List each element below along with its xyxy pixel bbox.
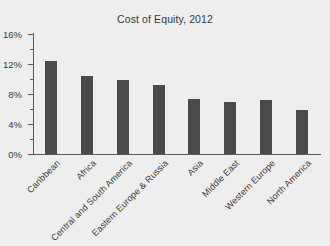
x-tick-label: Eastern Europe & Russia [89,158,169,238]
y-tick-label: 0% [8,149,22,160]
x-tick-label: Africa [74,158,98,182]
y-tick-major: 12% [28,64,33,65]
y-tick-minor [30,109,33,110]
bar [81,76,93,154]
bar-chart: Cost of Equity, 2012 0%4%8%12%16% Caribb… [0,0,330,246]
y-tick-label: 8% [8,89,22,100]
bar [224,102,236,155]
plot-area: 0%4%8%12%16% [33,34,320,154]
chart-title: Cost of Equity, 2012 [0,13,330,25]
x-axis-line [33,154,321,155]
bar [260,100,272,154]
x-tick-label: Caribbean [25,158,62,195]
y-tick-label: 12% [3,59,22,70]
y-tick-major: 0% [28,154,33,155]
y-tick-major: 16% [28,34,33,35]
y-tick-minor [30,49,33,50]
y-tick-major: 4% [28,124,33,125]
bar [117,80,129,154]
y-tick-minor [30,79,33,80]
x-tick-label: Asia [186,158,206,178]
y-tick-minor [30,139,33,140]
bar [296,110,308,154]
bar [153,85,165,154]
bar [45,61,57,154]
y-tick-label: 16% [3,29,22,40]
y-tick-label: 4% [8,119,22,130]
y-tick-major: 8% [28,94,33,95]
bar [188,99,200,154]
